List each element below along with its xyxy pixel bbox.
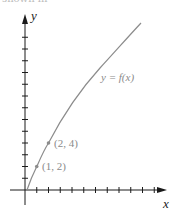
x-axis-arrow-icon	[157, 187, 167, 193]
y-axis-label: y	[29, 8, 37, 23]
point-label-2-4: (2, 4)	[54, 137, 78, 150]
point-1-2	[35, 165, 39, 169]
y-axis-arrow-icon	[22, 14, 28, 24]
point-2-4	[47, 141, 51, 145]
point-label-1-2: (1, 2)	[42, 160, 66, 173]
graph: y x y = f(x) (2, 4) (1, 2)	[0, 0, 182, 214]
x-axis-label: x	[162, 196, 169, 211]
curve-label: y = f(x)	[100, 71, 134, 84]
